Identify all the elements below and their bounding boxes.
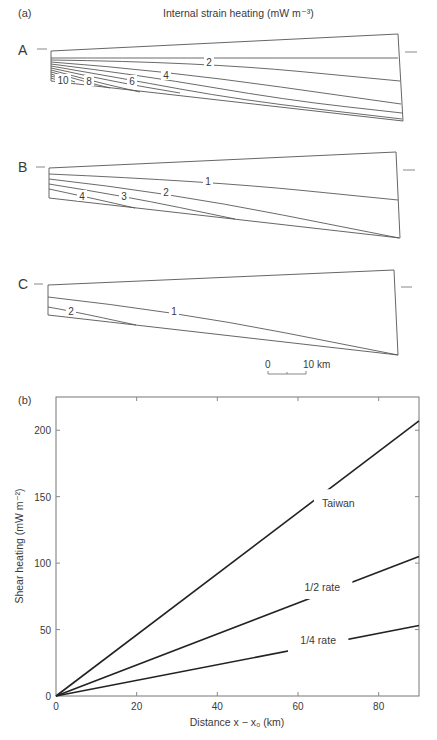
- x-tick-label: 40: [212, 701, 224, 712]
- section-label: B: [18, 159, 27, 175]
- contour-label: 10: [57, 75, 69, 86]
- y-tick-label: 100: [34, 558, 51, 569]
- x-tick-label: 0: [53, 701, 59, 712]
- contour-label: 2: [206, 57, 212, 68]
- y-axis-label: Shear heating (mW m⁻²): [13, 488, 25, 603]
- contour-label: 4: [79, 191, 85, 202]
- panel-a-title: Internal strain heating (mW m⁻³): [163, 7, 314, 19]
- contour-label: 1: [171, 306, 177, 317]
- contour-label: 2: [68, 306, 74, 317]
- contour-line: [49, 179, 399, 238]
- x-tick-label: 20: [131, 701, 143, 712]
- series-line-taiwan: [56, 421, 419, 696]
- scale-bar: 0 10 km: [265, 359, 330, 374]
- y-tick-label: 50: [40, 625, 52, 636]
- y-tick-label: 150: [34, 492, 51, 503]
- contour-line: [49, 174, 398, 200]
- series-label: 1/4 rate: [300, 634, 336, 646]
- plot-frame: [56, 397, 419, 696]
- x-tick-label: 80: [373, 701, 385, 712]
- x-axis-label: Distance x − x₀ (km): [190, 716, 285, 728]
- series-line-1-4-rate: [56, 626, 419, 696]
- section-outline: [51, 34, 403, 121]
- y-tick-label: 0: [45, 691, 51, 702]
- contour-label: 8: [86, 76, 92, 87]
- strain-heating-sections: A246810B1234C12: [18, 34, 417, 355]
- section-label: A: [18, 42, 28, 58]
- panel-a-label: (a): [18, 7, 31, 19]
- contour-line: [51, 62, 401, 104]
- panel-b-label: (b): [18, 394, 31, 406]
- shear-heating-chart: 020406080050100150200Taiwan1/2 rate1/4 r…: [34, 397, 419, 712]
- section-label: C: [18, 276, 28, 292]
- contour-label: 3: [121, 191, 127, 202]
- series-line-1-2-rate: [56, 556, 419, 696]
- contour-line: [51, 64, 402, 113]
- section-c: C12: [18, 270, 412, 355]
- section-b: B1234: [18, 152, 415, 238]
- contour-label: 4: [163, 70, 169, 81]
- section-a: A246810: [18, 34, 417, 121]
- contour-line: [48, 297, 398, 355]
- scale-bar-start-label: 0: [265, 359, 271, 370]
- contour-label: 2: [163, 187, 169, 198]
- section-outline: [48, 270, 398, 355]
- contour-label: 6: [129, 76, 135, 87]
- series-label: Taiwan: [322, 497, 355, 509]
- series-label: 1/2 rate: [304, 581, 340, 593]
- figure: (a) Internal strain heating (mW m⁻³) A24…: [0, 0, 437, 740]
- contour-line: [48, 307, 136, 325]
- scale-bar-end-label: 10 km: [303, 359, 330, 370]
- y-tick-label: 200: [34, 425, 51, 436]
- contour-line: [51, 66, 402, 119]
- x-tick-label: 60: [292, 701, 304, 712]
- contour-label: 1: [205, 176, 211, 187]
